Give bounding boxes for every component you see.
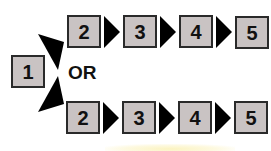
highlight-smudge	[105, 144, 235, 151]
step-label: 2	[78, 22, 89, 42]
step-box-bottom-4: 4	[178, 101, 212, 134]
step-label: 4	[190, 22, 201, 42]
step-label: 3	[134, 22, 145, 42]
step-box-bottom-5: 5	[234, 101, 268, 134]
step-box-bottom-2: 2	[66, 101, 100, 134]
step-box-top-2: 2	[67, 15, 101, 48]
step-box-bottom-3: 3	[122, 101, 156, 134]
step-label: 4	[189, 108, 200, 128]
step-label: 2	[77, 108, 88, 128]
step-box-top-3: 3	[123, 15, 157, 48]
step-label: 3	[133, 108, 144, 128]
or-label: OR	[68, 62, 97, 84]
arrow-right-icon	[103, 102, 119, 134]
step-box-top-4: 4	[179, 15, 213, 48]
arrow-right-icon	[215, 102, 231, 134]
arrow-right-icon	[216, 16, 232, 48]
branch-arrows-icon	[30, 28, 70, 118]
arrow-right-icon	[160, 16, 176, 48]
step-box-top-5: 5	[235, 16, 269, 49]
step-label: 5	[246, 23, 257, 43]
step-label: 5	[245, 108, 256, 128]
arrow-right-icon	[104, 16, 120, 48]
arrow-right-icon	[159, 102, 175, 134]
